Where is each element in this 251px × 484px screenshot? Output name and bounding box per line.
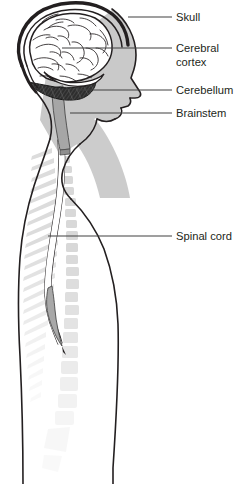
- labels: Skull Cerebral cortex Cerebellum Brainst…: [176, 11, 233, 242]
- label-brainstem: Brainstem: [176, 107, 226, 119]
- label-cerebral-cortex-line2: cortex: [176, 56, 207, 68]
- diagram-canvas: Skull Cerebral cortex Cerebellum Brainst…: [0, 0, 251, 484]
- anatomy-figure: Skull Cerebral cortex Cerebellum Brainst…: [0, 0, 251, 484]
- label-spinal-cord: Spinal cord: [176, 230, 232, 242]
- label-skull: Skull: [176, 11, 200, 23]
- label-cerebral-cortex-line1: Cerebral: [176, 42, 219, 54]
- label-cerebellum: Cerebellum: [176, 84, 233, 96]
